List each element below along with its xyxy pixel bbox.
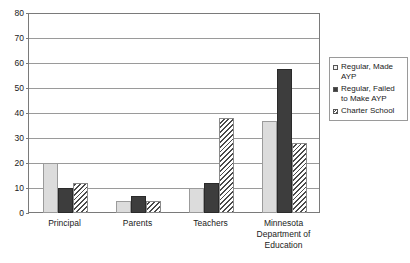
bar bbox=[131, 196, 146, 213]
legend-label-line: AYP bbox=[341, 72, 393, 82]
bar bbox=[189, 188, 204, 213]
x-axis-label-line: Parents bbox=[101, 218, 174, 229]
x-axis-label-line: Teachers bbox=[174, 218, 247, 229]
x-axis-label-line: Principal bbox=[28, 218, 101, 229]
bar bbox=[58, 188, 73, 213]
bars-layer bbox=[29, 14, 319, 213]
legend-label-line: Regular, Made bbox=[341, 62, 393, 72]
bar-group bbox=[43, 14, 88, 213]
x-axis-label-line: Education bbox=[247, 240, 320, 251]
legend-label-line: Regular, Failed bbox=[341, 84, 395, 94]
y-axis-tick-label: 0 bbox=[0, 209, 24, 218]
x-axis-tick-label: Principal bbox=[28, 218, 101, 229]
bar bbox=[116, 201, 131, 213]
y-axis-tick-label: 10 bbox=[0, 184, 24, 193]
x-axis-tick-label: Teachers bbox=[174, 218, 247, 229]
legend-item-label: Charter School bbox=[341, 106, 394, 116]
x-axis-tick-label: MinnesotaDepartment ofEducation bbox=[247, 218, 320, 251]
bar bbox=[146, 201, 161, 213]
bar bbox=[43, 163, 58, 213]
bar-group bbox=[189, 14, 234, 213]
bar bbox=[73, 183, 88, 213]
y-axis-tick-label: 20 bbox=[0, 159, 24, 168]
y-axis-tick-label: 60 bbox=[0, 59, 24, 68]
legend-item-label: Regular, Failedto Make AYP bbox=[341, 84, 395, 103]
legend-item[interactable]: Charter School bbox=[333, 106, 404, 116]
y-axis-tick-mark bbox=[26, 213, 29, 214]
legend-swatch-icon bbox=[333, 65, 338, 70]
legend-item[interactable]: Regular, MadeAYP bbox=[333, 62, 404, 81]
y-axis-tick-label: 30 bbox=[0, 134, 24, 143]
y-axis-tick-label: 70 bbox=[0, 34, 24, 43]
x-axis-labels: PrincipalParentsTeachersMinnesotaDepartm… bbox=[28, 218, 320, 263]
x-axis-tick-label: Parents bbox=[101, 218, 174, 229]
bar-chart: 80706050403020100 PrincipalParentsTeache… bbox=[0, 0, 410, 263]
bar bbox=[292, 143, 307, 213]
y-axis: 80706050403020100 bbox=[0, 13, 24, 213]
legend-item-label: Regular, MadeAYP bbox=[341, 62, 393, 81]
y-axis-tick-label: 50 bbox=[0, 84, 24, 93]
y-axis-tick-label: 40 bbox=[0, 109, 24, 118]
legend-label-line: to Make AYP bbox=[341, 94, 395, 104]
legend-swatch-icon bbox=[333, 109, 338, 114]
legend-label-line: Charter School bbox=[341, 106, 394, 116]
bar bbox=[204, 183, 219, 213]
chart-legend: Regular, MadeAYPRegular, Failedto Make A… bbox=[329, 57, 408, 121]
x-axis-label-line: Department of bbox=[247, 229, 320, 240]
bar bbox=[262, 121, 277, 213]
bar-group bbox=[262, 14, 307, 213]
y-axis-tick-label: 80 bbox=[0, 9, 24, 18]
x-axis-label-line: Minnesota bbox=[247, 218, 320, 229]
legend-swatch-icon bbox=[333, 87, 338, 92]
legend-item[interactable]: Regular, Failedto Make AYP bbox=[333, 84, 404, 103]
bar bbox=[219, 118, 234, 213]
bar-group bbox=[116, 14, 161, 213]
bar bbox=[277, 69, 292, 213]
